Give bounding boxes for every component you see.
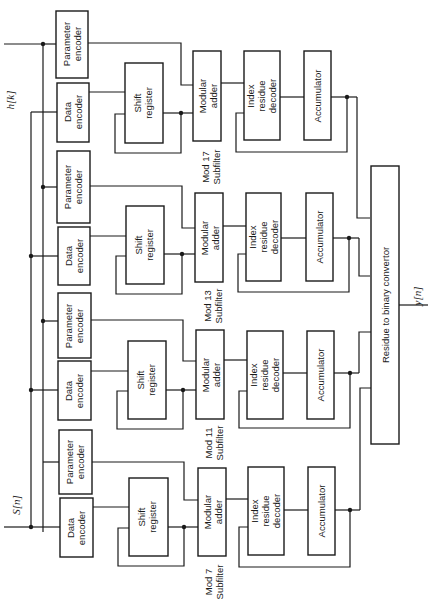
parameter-encoder-label-2: encoder	[75, 445, 86, 479]
modular-adder-label-2: adder	[213, 500, 224, 524]
subfilter-label-line1: Mod 17	[200, 151, 211, 183]
decoder-label-3: decoder	[269, 220, 280, 254]
subfilter-label-line2: Subfilter	[211, 150, 222, 185]
subfilter-label-line2: Subfilter	[214, 426, 225, 461]
hk-label: h[k]	[4, 91, 16, 110]
parameter-encoder-label-1: Parameter	[64, 440, 75, 484]
data-encoder-label-2: encoder	[76, 511, 87, 545]
decoder-label-2: residue	[260, 495, 271, 526]
data-encoder-label-2: encoder	[74, 239, 85, 273]
rns-filter-block-diagram: h[k] S[n] Parameter encoder Data encoder…	[0, 0, 440, 601]
accumulator-label: Accumulator	[314, 211, 325, 264]
data-encoder-label-2: encoder	[73, 95, 84, 129]
shift-register-label-1: Shift	[136, 507, 147, 526]
modular-adder-label-2: adder	[210, 226, 221, 250]
data-encoder-label-1: Data	[65, 517, 76, 538]
shift-register-label-2: register	[147, 501, 158, 533]
shift-register-label-1: Shift	[135, 370, 146, 389]
shift-register-label-2: register	[146, 364, 157, 396]
decoder-label-1: Index	[248, 363, 259, 386]
decoder-label-1: Index	[245, 84, 256, 107]
data-encoder-label-1: Data	[63, 380, 74, 401]
data-encoder-label-1: Data	[63, 245, 74, 266]
decoder-label-1: Index	[249, 499, 260, 522]
parameter-encoder-label-1: Parameter	[61, 22, 72, 66]
modular-adder-label-1: Modular	[199, 221, 210, 255]
accumulator-label: Accumulator	[316, 485, 327, 538]
parameter-encoder-label-2: encoder	[73, 170, 84, 204]
modular-adder-label-1: Modular	[197, 79, 208, 113]
convertor-label: Residue to binary convertor	[380, 247, 391, 363]
subfilter-label-line2: Subfilter	[213, 289, 224, 324]
data-encoder-label-1: Data	[62, 101, 73, 122]
accumulator-label: Accumulator	[312, 70, 323, 123]
parameter-encoder-label-1: Parameter	[62, 165, 73, 209]
subfilter-label-line1: Mod 7	[203, 569, 214, 595]
modular-adder-label-1: Modular	[200, 358, 211, 392]
data-encoder-label-2: encoder	[74, 374, 85, 408]
parameter-encoder-label-2: encoder	[74, 309, 85, 343]
shift-register-label-2: register	[143, 87, 154, 119]
decoder-label-2: residue	[259, 359, 270, 390]
sn-label: S[n]	[10, 495, 22, 515]
shift-register-label-1: Shift	[132, 93, 143, 112]
modular-adder-label-2: adder	[211, 363, 222, 387]
yn-label: y[n]	[411, 287, 423, 307]
decoder-label-3: decoder	[267, 79, 278, 113]
parameter-encoder-label-1: Parameter	[63, 304, 74, 348]
subfilter-label-line1: Mod 11	[203, 428, 214, 459]
decoder-label-2: residue	[256, 80, 267, 111]
subfilter-label-line2: Subfilter	[214, 565, 225, 600]
decoder-label-3: decoder	[271, 494, 282, 528]
modular-adder-label-1: Modular	[202, 495, 213, 529]
modular-adder-label-2: adder	[208, 84, 219, 108]
shift-register-label-2: register	[144, 229, 155, 261]
subfilter-label-line1: Mod 13	[202, 290, 213, 322]
decoder-label-2: residue	[258, 221, 269, 252]
parameter-encoder-label-2: encoder	[72, 27, 83, 61]
decoder-label-1: Index	[247, 225, 258, 248]
shift-register-label-1: Shift	[133, 235, 144, 254]
accumulator-label: Accumulator	[315, 349, 326, 402]
decoder-label-3: decoder	[270, 358, 281, 392]
